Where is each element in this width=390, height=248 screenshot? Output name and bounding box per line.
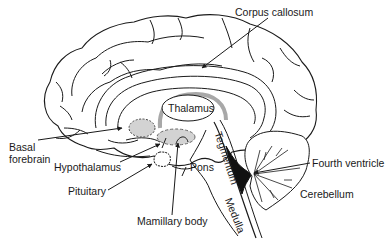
label-fourth-ventricle: Fourth ventricle [312,157,384,169]
label-cerebellum: Cerebellum [300,188,354,200]
label-pituitary: Pituitary [68,185,106,197]
label-basal-forebrain-line1: Basal [9,141,35,153]
label-thalamus: Thalamus [168,102,214,114]
label-hypothalamus: Hypothalamus [54,161,121,173]
label-pons: Pons [190,161,214,173]
label-corpus-callosum: Corpus callosum [235,6,313,18]
label-basal-forebrain-line2: forebrain [9,153,50,165]
pituitary-region [154,152,170,167]
label-mamillary-body: Mamillary body [137,215,208,227]
basal-forebrain-region [129,119,155,137]
brain-diagram [0,0,390,248]
